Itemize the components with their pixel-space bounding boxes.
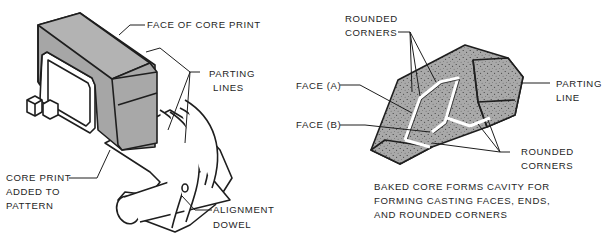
- label-core-print-added-line2: ADDED TO: [6, 185, 60, 199]
- label-parting-line-line1: PARTING: [556, 77, 602, 91]
- label-alignment-dowel-line2: DOWEL: [213, 218, 251, 232]
- label-rounded-corners-top-line2: CORNERS: [345, 26, 397, 40]
- label-face-of-core-print: FACE OF CORE PRINT: [147, 18, 261, 32]
- pattern-with-core-print: [27, 13, 232, 232]
- label-parting-lines-line2: LINES: [213, 81, 244, 95]
- label-alignment-dowel-line1: ALIGNMENT: [213, 203, 274, 217]
- label-parting-lines-line1: PARTING: [209, 67, 255, 81]
- label-face-a: FACE (A): [296, 79, 341, 93]
- caption-line3: AND ROUNDED CORNERS: [374, 208, 507, 222]
- baked-core: [371, 45, 523, 164]
- label-rounded-corners-bottom-line2: CORNERS: [521, 159, 573, 173]
- label-parting-line-line2: LINE: [556, 91, 580, 105]
- label-rounded-corners-top-line1: ROUNDED: [345, 12, 398, 26]
- caption-line1: BAKED CORE FORMS CAVITY FOR: [374, 180, 550, 194]
- label-rounded-corners-bottom-line1: ROUNDED: [521, 145, 574, 159]
- label-core-print-added-line3: PATTERN: [6, 199, 54, 213]
- label-face-b: FACE (B): [296, 118, 341, 132]
- caption-line2: FORMING CASTING FACES, ENDS,: [374, 194, 550, 208]
- label-core-print-added-line1: CORE PRINT: [6, 171, 71, 185]
